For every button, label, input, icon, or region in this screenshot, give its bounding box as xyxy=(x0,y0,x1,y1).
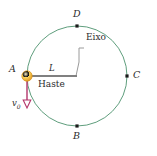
axis-label-eixo: Eixo xyxy=(86,33,106,42)
velocity-subscript: 0 xyxy=(17,103,21,110)
point-label-a: A xyxy=(9,64,16,74)
point-marker-b xyxy=(75,124,78,127)
velocity-label-v0: v0 xyxy=(12,99,21,110)
point-marker-d xyxy=(75,24,78,27)
eixo-leader-line xyxy=(76,48,84,76)
mass-ball-a xyxy=(22,71,32,81)
rod-label-haste: Haste xyxy=(38,80,65,89)
physics-figure: A D C B L Haste Eixo v0 xyxy=(0,0,157,156)
point-label-c: C xyxy=(133,70,140,80)
point-marker-c xyxy=(125,74,128,77)
point-label-d: D xyxy=(73,9,81,19)
point-label-b: B xyxy=(73,131,80,141)
rod-length-label: L xyxy=(49,64,55,73)
velocity-arrowhead-icon xyxy=(23,100,31,108)
